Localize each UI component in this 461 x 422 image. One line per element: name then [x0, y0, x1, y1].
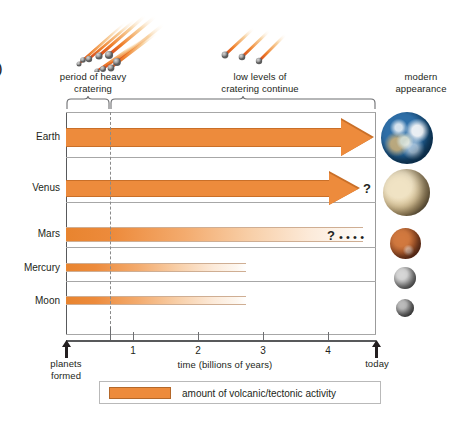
row-label-mercury: Mercury [0, 262, 60, 274]
row-label-moon: Moon [0, 295, 60, 307]
low-cratering-bracket [110, 96, 376, 110]
low-cratering-meteors-icon [210, 26, 288, 72]
row-divider [66, 334, 376, 335]
activity-bar-venus [66, 180, 330, 197]
activity-bar-mercury [66, 263, 246, 272]
axis-tick-1 [133, 332, 134, 340]
axis-tick-era [110, 327, 111, 340]
today-label: today [356, 358, 398, 370]
row-label-venus: Venus [0, 182, 60, 194]
activity-bar-earth [66, 128, 342, 147]
row-divider [66, 247, 376, 248]
axis-tick-4 [328, 332, 329, 340]
axis-tick-2 [198, 332, 199, 340]
activity-arrow-earth [341, 120, 372, 156]
row-label-mars: Mars [0, 228, 60, 240]
axis-tick-label-2: 2 [188, 345, 208, 356]
thumbnail-venus [383, 169, 430, 216]
time-axis-line [66, 340, 376, 342]
thumbnail-moon [396, 299, 414, 317]
corner-glyph: ) [0, 60, 3, 77]
axis-tick-3 [263, 332, 264, 340]
heavy-cratering-label: period of heavy cratering [38, 71, 148, 94]
modern-appearance-label: modern appearance [385, 71, 457, 94]
planets-formed-arrow-icon [60, 340, 73, 358]
era-boundary-line [110, 112, 111, 334]
mars-uncertainty-marker: ? [327, 229, 335, 242]
axis-tick-label-3: 3 [253, 345, 273, 356]
mars-trailing-dots: •••• [339, 232, 367, 243]
planets-formed-label: planets formed [31, 358, 101, 381]
axis-title: time (billions of years) [151, 359, 299, 371]
activity-arrow-venus [329, 173, 358, 205]
planetary-activity-figure: ) [0, 0, 461, 422]
row-divider [66, 112, 376, 113]
axis-tick-label-1: 1 [123, 345, 143, 356]
today-arrow-icon [370, 340, 383, 358]
row-divider [66, 157, 376, 158]
row-divider [66, 281, 376, 282]
heavy-cratering-bracket [66, 96, 110, 110]
axis-tick-label-4: 4 [318, 345, 338, 356]
thumbnail-mercury [394, 267, 416, 289]
legend-swatch [109, 387, 171, 399]
thumbnail-mars [390, 228, 421, 259]
legend: amount of volcanic/tectonic activity [99, 381, 381, 404]
heavy-cratering-meteors-icon [60, 14, 170, 72]
legend-label: amount of volcanic/tectonic activity [182, 387, 336, 400]
thumbnail-earth [381, 112, 433, 164]
low-cratering-label: low levels of cratering continue [192, 71, 328, 94]
venus-uncertainty-marker: ? [363, 182, 371, 195]
row-label-earth: Earth [0, 131, 60, 143]
activity-bar-moon [66, 296, 246, 305]
